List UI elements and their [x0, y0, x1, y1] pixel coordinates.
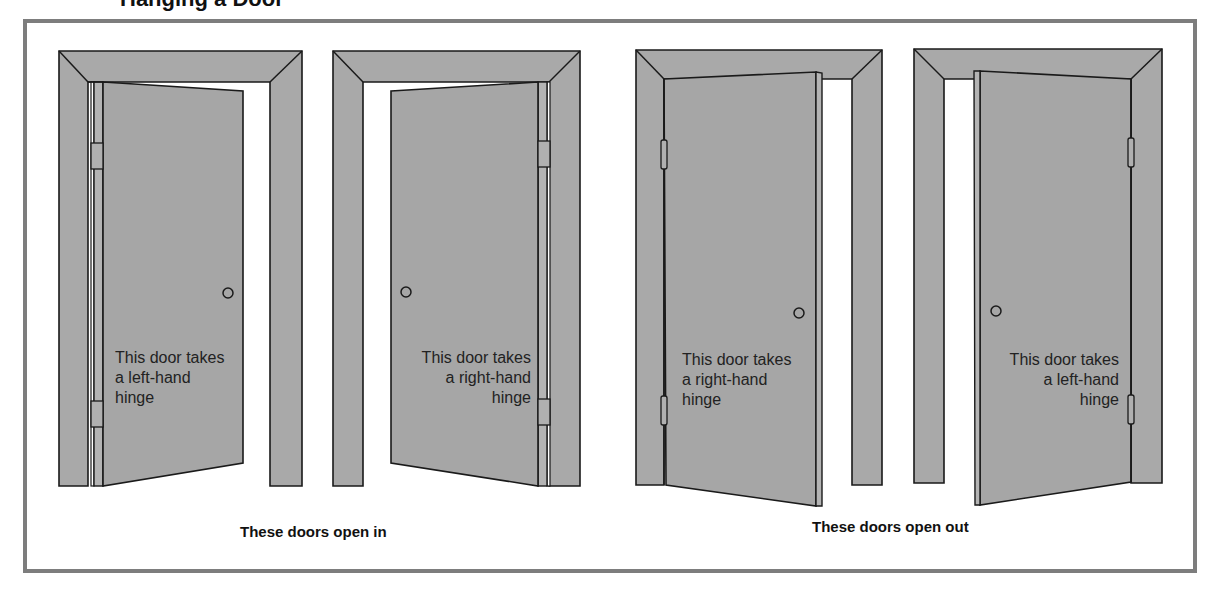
door-panel: [980, 71, 1131, 505]
door-panel: [664, 72, 816, 506]
hinge-icon: [91, 143, 103, 169]
hinge-icon: [1128, 138, 1134, 167]
label-line: This door takes: [422, 349, 531, 366]
label-line: This door takes: [1010, 351, 1119, 368]
hinge-icon: [538, 141, 550, 167]
door-2-label: This door takesa right-handhinge: [400, 348, 531, 408]
door-1-illustration: [59, 51, 302, 486]
hinge-icon: [538, 399, 550, 425]
label-line: a left-hand: [1043, 371, 1119, 388]
hinge-icon: [1128, 395, 1134, 424]
diagram-canvas: [0, 0, 1219, 597]
door-panel: [391, 82, 538, 486]
figure-title-fragment: Hanging a Door: [120, 0, 284, 12]
door-3-illustration: [636, 50, 882, 506]
label-line: This door takes: [115, 349, 224, 366]
door-edge: [974, 71, 980, 505]
label-line: hinge: [682, 391, 721, 408]
door-4-illustration: [914, 49, 1162, 505]
door-hinge-diagram: Hanging a Door This door takesa left-han…: [0, 0, 1219, 597]
hinge-icon: [91, 401, 103, 427]
label-line: a right-hand: [682, 371, 767, 388]
label-line: a left-hand: [115, 369, 191, 386]
door-edge: [816, 72, 822, 506]
label-line: This door takes: [682, 351, 791, 368]
caption-open-out: These doors open out: [812, 518, 969, 535]
hinge-icon: [661, 396, 667, 425]
door-2-illustration: [333, 51, 580, 486]
caption-open-in: These doors open in: [240, 523, 387, 540]
label-line: hinge: [492, 389, 531, 406]
door-1-label: This door takesa left-handhinge: [115, 348, 224, 408]
label-line: a right-hand: [446, 369, 531, 386]
door-panel: [103, 82, 243, 486]
label-line: hinge: [115, 389, 154, 406]
door-3-label: This door takesa right-handhinge: [682, 350, 791, 410]
door-4-label: This door takesa left-handhinge: [990, 350, 1119, 410]
hinge-icon: [661, 140, 667, 169]
label-line: hinge: [1080, 391, 1119, 408]
